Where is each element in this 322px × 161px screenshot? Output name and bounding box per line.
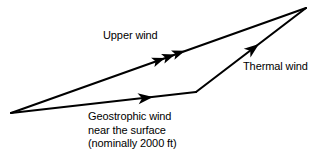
geostrophic-wind-label: Geostrophic wind near the surface (nomin… [88, 110, 177, 151]
thermal-wind-label: Thermal wind [243, 60, 308, 74]
geostrophic-wind-label-line-3: (nominally 2000 ft) [88, 137, 177, 151]
upper-wind-label: Upper wind [103, 29, 158, 43]
upper-wind-arrowhead-3 [171, 46, 187, 60]
wind-vector-diagram: Upper wind Thermal wind Geostrophic wind… [0, 0, 322, 161]
geostrophic-wind-label-line-1: Geostrophic wind [88, 110, 177, 124]
upper-wind-arrowheads [151, 46, 187, 67]
geostrophic-wind-label-line-2: near the surface [88, 124, 177, 138]
